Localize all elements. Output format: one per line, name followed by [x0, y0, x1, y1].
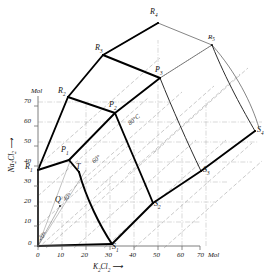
x-tick-70: 70: [197, 252, 204, 259]
y-tick-20: 20: [24, 198, 31, 205]
point-sub-S3: 3: [207, 170, 210, 176]
point-label-S2: S2: [154, 200, 161, 210]
y-axis-title: Na2Cl2 ⟶: [7, 125, 18, 185]
field-boundaries: [38, 23, 255, 246]
x-tick-60: 60: [177, 252, 184, 259]
point-sub-P3: 3: [160, 70, 163, 76]
y-axis-arrow: ⟶: [7, 138, 16, 149]
x-tick-30: 30: [105, 252, 112, 259]
point-label-S4: S4: [257, 126, 264, 136]
x-tick-0: 0: [36, 252, 40, 259]
y-axis-title-text: Na2Cl2: [7, 151, 16, 172]
y-tick-50: 50: [24, 138, 31, 145]
point-sub-S4: 4: [261, 130, 264, 136]
grid-lines: [38, 40, 262, 246]
x-tick-50: 50: [153, 252, 160, 259]
y-tick-10: 10: [24, 218, 31, 225]
point-sub-S2: 2: [158, 204, 161, 210]
point-label-P3: P3: [155, 66, 162, 76]
y-tick-60: 60: [24, 118, 31, 125]
x-tick-40: 40: [129, 252, 136, 259]
upper-surface-thin: [103, 23, 259, 128]
x-tick-10: 10: [57, 252, 64, 259]
x-axis-title: K2Cl2 ⟶: [93, 263, 123, 273]
y-tick-0: 0: [28, 240, 32, 247]
point-label-T: T: [76, 163, 80, 171]
point-label-Q: Q: [55, 196, 61, 204]
point-sub-R4: 4: [155, 12, 158, 18]
y-tick-30: 30: [24, 178, 31, 185]
point-sub-S1: 1: [116, 247, 119, 253]
x-axis-unit: Mol: [208, 252, 219, 259]
point-sub-P1: 1: [66, 150, 69, 156]
point-label-R2: R2: [58, 87, 65, 97]
point-label-P2: P2: [109, 101, 116, 111]
point-label-P1: P1: [61, 146, 68, 156]
point-label-R3: R3: [95, 44, 102, 54]
x-axis-arrow: ⟶: [112, 262, 123, 271]
point-sub-R2: 2: [63, 91, 66, 97]
phase-diagram-figure: Mol Na2Cl2 ⟶ 70 60 50 40 30 20 10 0 0 10…: [0, 0, 276, 273]
p-series-dotted-line: [69, 45, 212, 160]
y-tick-70: 70: [24, 98, 31, 105]
axis-lines: [38, 96, 200, 246]
point-sub-R3: 3: [100, 48, 103, 54]
point-sub-P2: 2: [114, 105, 117, 111]
right-field-curves: [160, 45, 255, 171]
point-label-R1: R1: [25, 163, 32, 173]
x-tick-20: 20: [81, 252, 88, 259]
point-sub-R1: 1: [30, 167, 33, 173]
point-label-S3: S3: [203, 166, 210, 176]
x-axis-title-text: K2Cl2: [93, 262, 110, 271]
point-markers: [37, 22, 256, 245]
y-axis-unit: Mol: [31, 88, 42, 95]
axis-ticks: [34, 106, 200, 250]
point-sub-R5: 5: [212, 36, 215, 42]
point-label-R5: R5: [208, 34, 215, 43]
point-label-R4: R4: [150, 8, 157, 18]
point-label-S1: S1: [112, 243, 119, 253]
